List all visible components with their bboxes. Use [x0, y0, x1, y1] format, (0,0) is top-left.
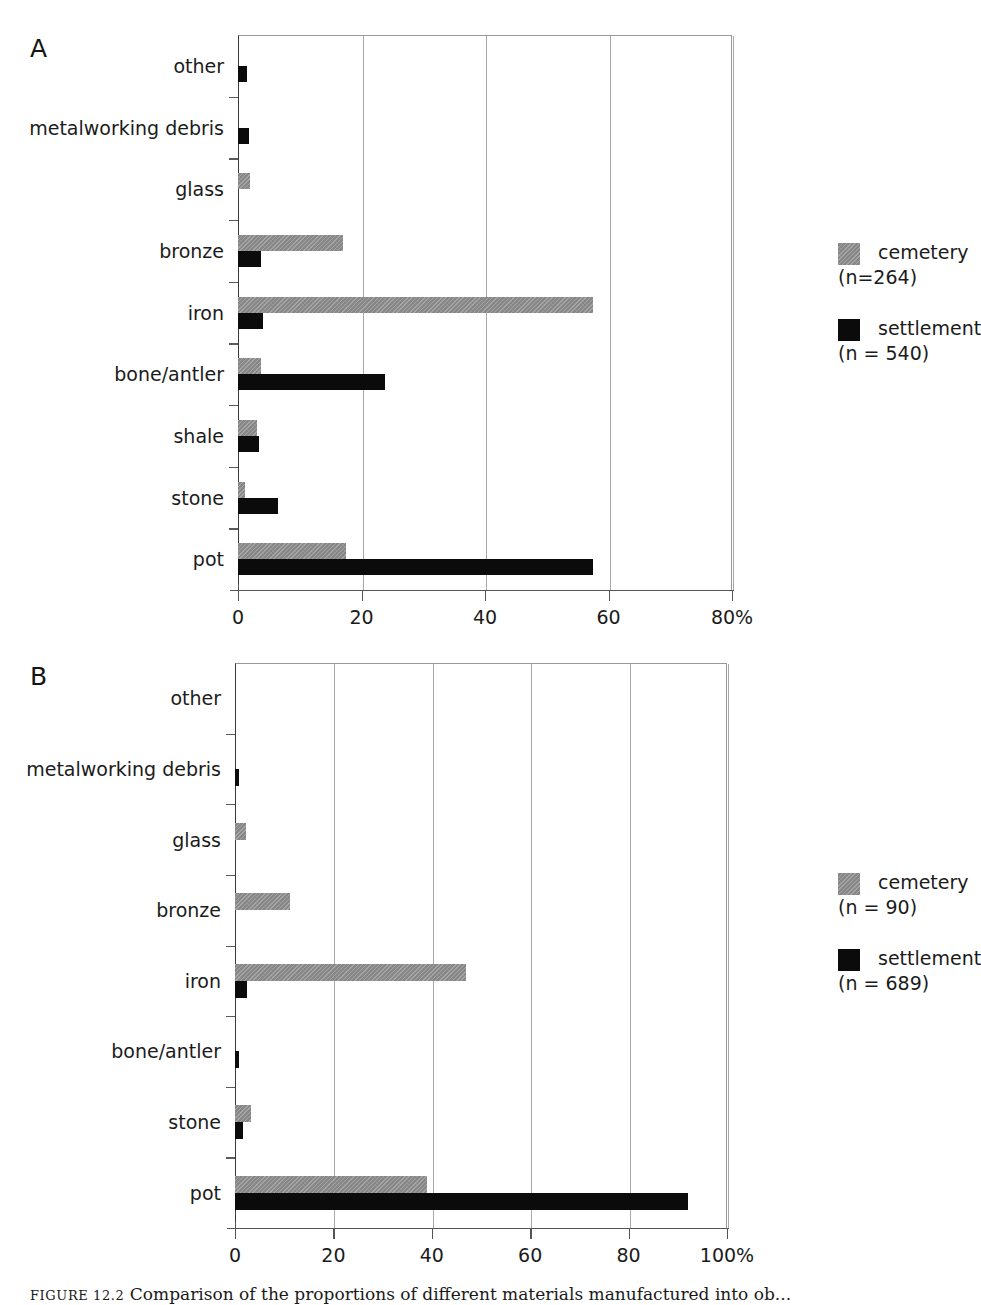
legend-a: cemetery(n=264)settlement(n = 540)	[838, 240, 981, 392]
x-tick-label-0: 0	[229, 1244, 241, 1266]
bar-settlement-bone-antler	[238, 374, 385, 390]
x-axis-tick-80	[629, 1228, 630, 1239]
x-axis-tick-80	[732, 590, 733, 601]
bar-cemetery-pot	[235, 1176, 427, 1193]
category-tick	[229, 405, 238, 406]
category-tick	[229, 282, 238, 283]
x-axis-tick-20	[333, 1228, 334, 1239]
bar-cemetery-pot	[238, 543, 346, 559]
bar-cemetery-glass	[235, 823, 246, 840]
category-tick	[226, 734, 235, 735]
category-label-pot: pot	[190, 1182, 221, 1204]
x-tick-label-40: 40	[420, 1244, 444, 1266]
bar-cemetery-iron	[238, 297, 593, 313]
panel-b-letter: B	[30, 662, 48, 691]
plot-area-b	[235, 663, 727, 1228]
x-axis-tick-20	[362, 590, 363, 601]
category-tick	[226, 1157, 235, 1158]
x-axis-tick-0	[238, 584, 239, 601]
legend-series-count: (n = 90)	[838, 895, 981, 920]
gridline-40	[486, 36, 487, 590]
bar-settlement-stone	[238, 498, 278, 514]
bar-settlement-pot	[238, 559, 593, 575]
category-tick	[229, 158, 238, 159]
bar-settlement-stone	[235, 1122, 243, 1139]
x-tick-label-40: 40	[473, 606, 497, 628]
gridline-40	[433, 664, 434, 1228]
x-axis-tick-60	[609, 590, 610, 601]
legend-item-settlement: settlement(n = 540)	[838, 316, 981, 366]
legend-item-settlement: settlement(n = 689)	[838, 946, 981, 996]
legend-swatch-cemetery	[838, 873, 860, 895]
figure-number: FIGURE 12.2	[30, 1288, 124, 1303]
category-label-bronze: bronze	[159, 240, 224, 262]
legend-swatch-settlement	[838, 949, 860, 971]
bar-cemetery-glass	[238, 173, 250, 189]
category-label-metalworking-debris: metalworking debris	[29, 117, 224, 139]
gridline-100	[728, 664, 729, 1228]
bar-cemetery-stone	[235, 1105, 251, 1122]
bar-settlement-bone-antler	[235, 1051, 239, 1068]
panel-a-letter: A	[30, 34, 48, 63]
figure-caption-text: Comparison of the proportions of differe…	[130, 1284, 791, 1304]
legend-series-count: (n = 540)	[838, 341, 981, 366]
legend-series-name: cemetery	[878, 241, 969, 263]
category-tick	[226, 875, 235, 876]
category-label-stone: stone	[168, 1111, 221, 1133]
category-tick	[229, 97, 238, 98]
x-tick-label-0: 0	[232, 606, 244, 628]
legend-series-name: settlement	[878, 317, 981, 339]
x-axis-tick-40	[432, 1228, 433, 1239]
category-label-pot: pot	[193, 548, 224, 570]
legend-swatch-cemetery	[838, 243, 860, 265]
category-label-bronze: bronze	[156, 899, 221, 921]
plot-area-a	[238, 35, 732, 590]
bar-cemetery-stone	[238, 482, 245, 498]
x-tick-label-100: 100%	[700, 1244, 754, 1266]
x-axis-tick-0	[235, 1222, 236, 1239]
category-label-stone: stone	[171, 487, 224, 509]
x-tick-label-80: 80%	[711, 606, 753, 628]
x-axis-tick-40	[485, 590, 486, 601]
bar-settlement-pot	[235, 1193, 688, 1210]
x-tick-label-60: 60	[596, 606, 620, 628]
x-axis-line	[230, 590, 734, 591]
category-label-iron: iron	[188, 302, 224, 324]
legend-b: cemetery(n = 90)settlement(n = 689)	[838, 870, 981, 1022]
category-label-iron: iron	[185, 970, 221, 992]
bar-cemetery-bronze	[238, 235, 343, 251]
category-label-metalworking-debris: metalworking debris	[26, 758, 221, 780]
x-tick-label-20: 20	[349, 606, 373, 628]
bar-cemetery-bone-antler	[238, 358, 261, 374]
category-label-other: other	[173, 55, 224, 77]
legend-swatch-settlement	[838, 319, 860, 341]
bar-settlement-metalworking-debris	[235, 769, 239, 786]
bar-settlement-bronze	[238, 251, 261, 267]
gridline-80	[733, 36, 734, 590]
bar-settlement-iron	[238, 313, 263, 329]
category-tick	[226, 804, 235, 805]
x-axis-tick-60	[530, 1228, 531, 1239]
legend-item-cemetery: cemetery(n = 90)	[838, 870, 981, 920]
category-label-bone-antler: bone/antler	[114, 363, 224, 385]
category-label-shale: shale	[173, 425, 224, 447]
category-tick	[229, 467, 238, 468]
bar-settlement-other	[238, 66, 247, 82]
bar-cemetery-bronze	[235, 893, 290, 910]
gridline-20	[363, 36, 364, 590]
chart-panel-a: A othermetalworking debrisglassbronzeiro…	[0, 18, 980, 638]
bar-cemetery-iron	[235, 964, 466, 981]
category-tick	[229, 220, 238, 221]
x-axis-line	[227, 1228, 729, 1229]
legend-item-cemetery: cemetery(n=264)	[838, 240, 981, 290]
category-tick	[229, 343, 238, 344]
bar-settlement-metalworking-debris	[238, 128, 249, 144]
category-tick	[226, 1016, 235, 1017]
category-tick	[226, 1087, 235, 1088]
legend-series-count: (n = 689)	[838, 971, 981, 996]
bar-settlement-iron	[235, 981, 247, 998]
gridline-60	[531, 664, 532, 1228]
category-label-glass: glass	[175, 178, 224, 200]
chart-panel-b: B othermetalworking debrisglassbronzeiro…	[0, 648, 980, 1278]
